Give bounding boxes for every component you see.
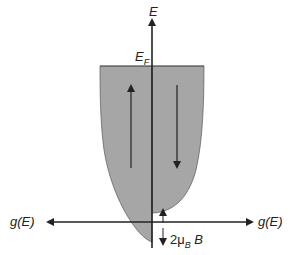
splitting-prefix: 2μ bbox=[170, 232, 185, 247]
spin-down-band bbox=[152, 66, 204, 213]
fermi-level-label: EF bbox=[135, 49, 149, 67]
energy-label-text: E bbox=[149, 4, 158, 19]
dos-left-label: g(E) bbox=[10, 214, 35, 229]
dos-right-label: g(E) bbox=[258, 214, 283, 229]
spin-up-band bbox=[100, 66, 152, 242]
energy-axis-label: E bbox=[149, 4, 158, 19]
dos-diagram bbox=[0, 0, 296, 255]
splitting-label: 2μB B bbox=[170, 232, 203, 250]
fermi-label-text: E bbox=[135, 49, 144, 64]
splitting-suffix: B bbox=[191, 232, 203, 247]
fermi-label-sub: F bbox=[144, 57, 150, 67]
